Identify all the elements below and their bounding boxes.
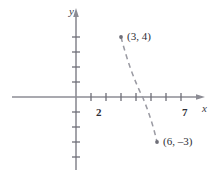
dashed-curve — [121, 37, 157, 142]
point-label-3-4: (3, 4) — [127, 31, 151, 42]
x-tick-label-7: 7 — [182, 107, 188, 118]
point-marker-6-neg3 — [155, 140, 159, 144]
x-axis-arrowhead — [196, 94, 205, 100]
y-axis-arrowhead — [73, 8, 79, 17]
y-axis-label: y — [69, 6, 74, 17]
x-axis-label: x — [202, 103, 207, 114]
point-marker-3-4 — [119, 35, 123, 39]
plot-canvas — [0, 0, 216, 175]
point-label-6-neg3: (6, –3) — [163, 136, 192, 147]
x-tick-label-2: 2 — [96, 107, 102, 118]
coordinate-plane-figure: y x 2 7 (3, 4) (6, –3) — [0, 0, 216, 175]
